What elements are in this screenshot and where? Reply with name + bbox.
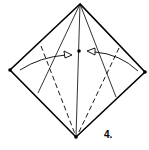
- center-crease: [76, 4, 80, 137]
- bottom-corner-dot: [74, 135, 78, 139]
- right-dashed-fold: [78, 48, 119, 134]
- origami-diagram: [0, 0, 149, 150]
- left-arrowhead-icon: [64, 51, 72, 58]
- left-dashed-fold: [41, 46, 75, 134]
- diamond-outline: [10, 4, 145, 137]
- center-dot: [77, 49, 81, 53]
- right-solid-crease: [80, 4, 116, 97]
- right-corner-dot: [143, 70, 147, 74]
- right-curved-arrow: [95, 52, 138, 71]
- left-solid-crease: [38, 4, 80, 93]
- right-arrowhead-icon: [87, 48, 95, 55]
- left-corner-dot: [8, 68, 12, 72]
- left-curved-arrow: [20, 55, 66, 70]
- step-number: 4.: [104, 129, 112, 140]
